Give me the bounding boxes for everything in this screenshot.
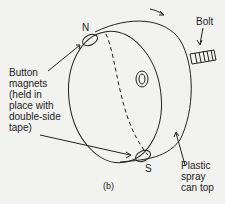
cap-label: Plastic spray can top [181, 160, 214, 193]
diagram-canvas: N S Bolt Button magnets (held in place w… [0, 0, 225, 204]
dashed-meridian [106, 34, 148, 155]
bolt-label: Bolt [196, 16, 213, 27]
figure-caption: (b) [103, 181, 114, 192]
rim-ellipse [60, 25, 169, 169]
magnets-label: Button magnets (held in place with doubl… [9, 67, 61, 133]
center-hole [136, 71, 148, 87]
magnet-south [134, 148, 153, 164]
south-label: S [145, 163, 152, 174]
north-label: N [82, 22, 89, 33]
